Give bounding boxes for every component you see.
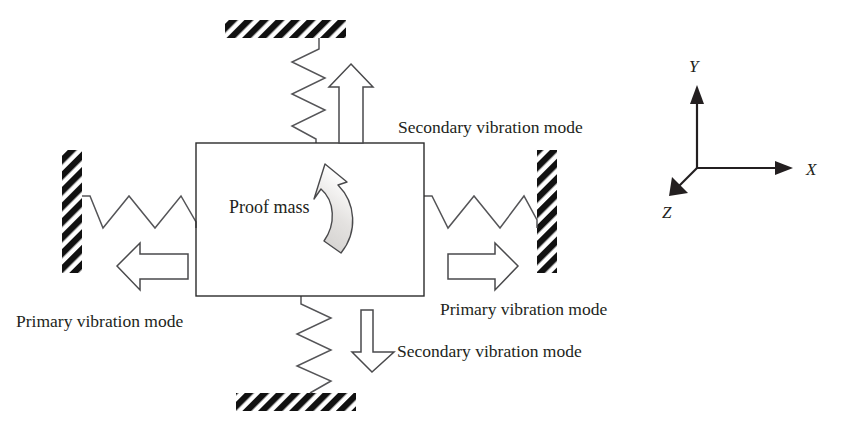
left-wall-hatch xyxy=(62,150,82,273)
up-arrow xyxy=(329,64,373,143)
proof-mass-label: Proof mass xyxy=(229,197,310,217)
figure-canvas: Proof mass Secondary vibration mode Seco… xyxy=(0,0,849,439)
top-spring xyxy=(292,38,325,143)
down-arrow xyxy=(352,310,394,372)
y-axis-arrowhead xyxy=(690,85,704,104)
y-axis-label: Y xyxy=(689,57,700,76)
secondary-mode-label-top: Secondary vibration mode xyxy=(398,117,583,137)
right-spring xyxy=(424,196,537,228)
primary-mode-label-left: Primary vibration mode xyxy=(16,311,183,331)
right-arrow xyxy=(448,243,518,290)
proof-mass-rect xyxy=(196,143,424,296)
primary-mode-label-right: Primary vibration mode xyxy=(440,299,607,319)
left-arrow xyxy=(117,243,188,290)
diagram-svg: Proof mass Secondary vibration mode Seco… xyxy=(0,0,849,439)
bottom-spring xyxy=(297,296,331,393)
proof-mass-block: Proof mass xyxy=(196,143,424,296)
mode-labels: Secondary vibration mode Secondary vibra… xyxy=(16,117,607,361)
bottom-wall-hatch xyxy=(236,393,356,411)
x-axis-label: X xyxy=(805,160,817,179)
z-axis-label: Z xyxy=(662,203,672,222)
secondary-mode-label-bottom: Secondary vibration mode xyxy=(397,341,582,361)
coordinate-axes: Y X Z xyxy=(662,57,817,222)
x-axis-arrowhead xyxy=(775,161,793,175)
top-wall-hatch xyxy=(225,20,346,38)
z-axis-line xyxy=(678,168,697,187)
springs xyxy=(82,38,537,393)
rotation-arrow-shape xyxy=(314,164,353,253)
rotation-arrow xyxy=(314,164,353,253)
left-spring xyxy=(82,196,196,228)
right-wall-hatch xyxy=(537,150,557,273)
